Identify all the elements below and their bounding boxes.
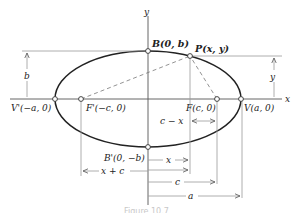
x-axis-label: x [285,94,290,104]
figure-caption: Figure 10.7 [124,207,169,213]
dim-label-c: c [175,177,180,187]
label-b: B(0, b) [151,38,189,50]
label-f: F(c, 0) [185,103,216,113]
dim-label-y: y [269,72,276,82]
point-f-prime [79,97,84,102]
label-f-prime: F'(−c, 0) [85,103,126,113]
label-v: V(a, 0) [244,103,275,113]
point-v [239,97,244,102]
label-p: P(x, y) [194,43,229,55]
point-v-prime [53,97,58,102]
dim-label-b: b [24,71,30,81]
point-b [146,49,151,54]
point-b-prime [146,145,151,150]
label-v-prime: V'(−a, 0) [11,103,52,113]
focal-radius-right [190,56,217,99]
dim-label-x-plus-c: x + c [101,166,124,176]
point-p [188,54,193,59]
point-f [215,97,220,102]
ellipse-diagram: y x B(0, b) P(x, y) V'(−a, 0) F'(−c, 0) … [0,0,299,213]
label-b-prime: B'(0, −b) [103,153,145,163]
dim-label-a: a [188,191,193,201]
dim-label-c-minus-x: c − x [160,116,183,126]
y-axis-label: y [143,7,150,17]
focal-radius-left [81,56,190,99]
dim-label-x: x [166,155,171,165]
